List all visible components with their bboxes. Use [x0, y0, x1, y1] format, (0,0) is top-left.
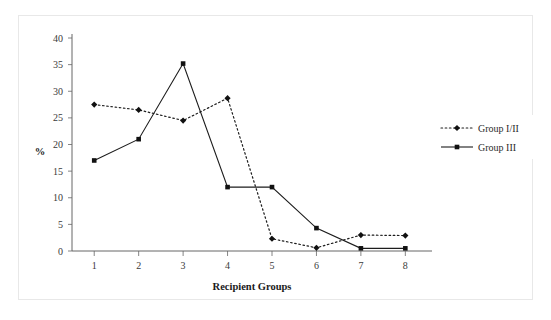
data-point — [269, 236, 275, 242]
data-point — [181, 61, 186, 66]
legend-marker — [455, 145, 460, 150]
series-line-1 — [94, 98, 405, 248]
x-tick-label: 2 — [136, 260, 141, 271]
y-tick-label: 5 — [58, 219, 63, 230]
x-tick-label: 1 — [92, 260, 97, 271]
figure-container: 0510152025303540 12345678 % Recipient Gr… — [0, 0, 551, 320]
data-point — [358, 232, 364, 238]
y-tick-label: 25 — [53, 112, 63, 123]
data-point — [270, 185, 275, 190]
x-tick-label: 5 — [270, 260, 275, 271]
series-2 — [92, 61, 408, 250]
x-axis-tick-labels: 12345678 — [92, 260, 408, 271]
data-point — [91, 101, 97, 107]
x-tick-label: 7 — [358, 260, 363, 271]
x-tick-label: 3 — [181, 260, 186, 271]
y-axis-title: % — [35, 146, 46, 157]
series-line-2 — [94, 64, 405, 249]
y-axis-tick-labels: 0510152025303540 — [53, 33, 63, 257]
data-point — [402, 232, 408, 238]
data-point — [180, 117, 186, 123]
data-point — [403, 246, 408, 251]
x-tick-label: 4 — [225, 260, 230, 271]
y-tick-label: 20 — [53, 139, 63, 150]
series-layer — [91, 61, 408, 251]
y-axis-ticks — [68, 38, 72, 251]
x-tick-label: 6 — [314, 260, 319, 271]
y-tick-label: 30 — [53, 86, 63, 97]
x-axis-title: Recipient Groups — [213, 281, 292, 292]
legend-label-2: Group III — [478, 142, 516, 153]
y-tick-label: 35 — [53, 59, 63, 70]
y-tick-label: 0 — [58, 246, 63, 257]
data-point — [136, 137, 141, 142]
data-point — [225, 185, 230, 190]
data-point — [313, 245, 319, 251]
chart-legend: Group I/IIGroup III — [437, 115, 533, 159]
data-point — [359, 246, 364, 251]
data-point — [224, 95, 230, 101]
line-chart: 0510152025303540 12345678 % Recipient Gr… — [0, 0, 551, 320]
data-point — [136, 107, 142, 113]
x-axis-ticks — [94, 251, 405, 256]
y-tick-label: 40 — [53, 33, 63, 44]
y-tick-label: 15 — [53, 166, 63, 177]
data-point — [314, 226, 319, 231]
x-tick-label: 8 — [403, 260, 408, 271]
series-1 — [91, 95, 408, 251]
data-point — [92, 158, 97, 163]
legend-label-1: Group I/II — [478, 123, 519, 134]
y-tick-label: 10 — [53, 192, 63, 203]
